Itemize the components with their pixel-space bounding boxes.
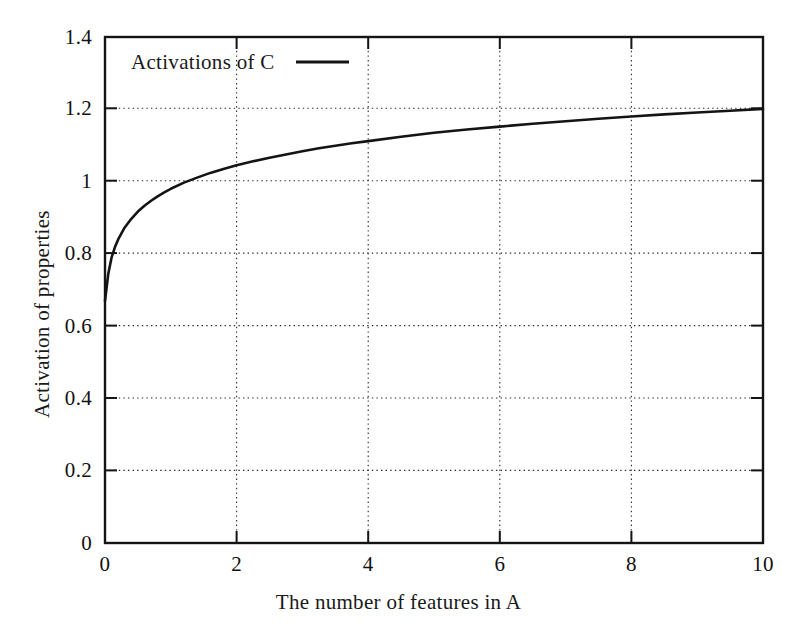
y-tick-label-1-4: 1.4: [44, 25, 92, 50]
x-tick-label-4: 4: [363, 552, 374, 577]
x-tick-label-2: 2: [231, 552, 242, 577]
vertical-gridlines: [237, 37, 632, 543]
chart-figure: 1.4 1.2 1 0.8 0.6 0.4 0.2 0 0 2 4 6 8 10…: [0, 0, 797, 626]
x-tick-label-6: 6: [494, 552, 505, 577]
y-tick-label-1: 1: [44, 168, 92, 193]
y-axis-ticks-right: [751, 108, 763, 470]
x-axis-title: The number of features in A: [0, 590, 797, 615]
legend-entry-label: Activations of C: [131, 50, 275, 75]
x-tick-label-0: 0: [100, 552, 111, 577]
y-tick-label-0: 0: [44, 531, 92, 556]
x-axis-ticks: [237, 531, 632, 543]
plot-canvas: [0, 0, 797, 626]
horizontal-gridlines: [105, 108, 763, 470]
plot-frame: [105, 37, 763, 543]
x-tick-label-10: 10: [752, 552, 774, 577]
y-tick-label-0-2: 0.2: [44, 458, 92, 483]
x-axis-ticks-top: [237, 37, 632, 49]
data-series-activations-of-c: [105, 109, 763, 301]
y-axis-title: Activation of properties: [30, 210, 55, 418]
y-tick-label-1-2: 1.2: [44, 96, 92, 121]
x-tick-label-8: 8: [626, 552, 637, 577]
